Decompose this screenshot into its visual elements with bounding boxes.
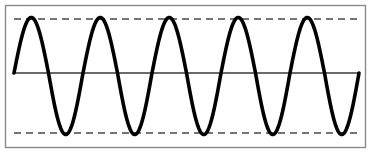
waveform-canvas: [0, 0, 372, 157]
waveform-figure: [0, 0, 372, 157]
